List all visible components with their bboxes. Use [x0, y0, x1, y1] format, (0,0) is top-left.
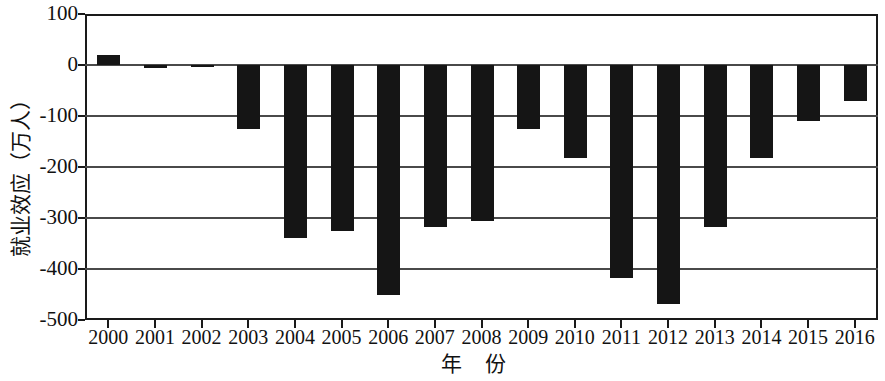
bar	[517, 65, 540, 129]
bar	[750, 65, 773, 158]
bar	[97, 55, 120, 65]
plot-area	[85, 14, 878, 320]
bar	[704, 65, 727, 227]
y-axis-tick-label: 100	[6, 3, 78, 24]
y-axis-tick-label-group: 1000-100-200-300-400-500	[0, 0, 78, 340]
bar	[657, 65, 680, 304]
y-axis-tick-mark	[78, 319, 85, 321]
x-axis-tick-label-group: 2000200120022003200420052006200720082009…	[85, 325, 878, 351]
y-axis-tick-mark	[78, 268, 85, 270]
bar	[377, 65, 400, 295]
bar	[564, 65, 587, 158]
bar	[284, 65, 307, 238]
y-axis-tick-mark	[78, 166, 85, 168]
gridline	[85, 268, 878, 270]
y-axis-tick-label: -100	[6, 105, 78, 126]
bar	[471, 65, 494, 221]
y-axis-tick-mark	[78, 115, 85, 117]
y-axis-tick-mark	[78, 64, 85, 66]
bar	[191, 65, 214, 67]
y-axis-tick-mark	[78, 13, 85, 15]
y-axis-tick-label: -200	[6, 156, 78, 177]
bar	[331, 65, 354, 231]
y-axis-tick-label: 0	[6, 54, 78, 75]
y-axis-tick-label: -500	[6, 309, 78, 330]
x-axis-tick-label: 2016	[827, 325, 883, 349]
bar	[610, 65, 633, 278]
y-axis-tick-mark	[78, 217, 85, 219]
y-axis-tick-label: -300	[6, 207, 78, 228]
bar	[424, 65, 447, 227]
employment-effect-bar-chart: 就业效应（万人） 1000-100-200-300-400-500 200020…	[0, 0, 885, 381]
bar	[797, 65, 820, 121]
y-axis-tick-label: -400	[6, 258, 78, 279]
x-axis-title: 年 份	[0, 352, 885, 376]
bar	[237, 65, 260, 129]
bar	[144, 65, 167, 68]
bar	[844, 65, 867, 101]
